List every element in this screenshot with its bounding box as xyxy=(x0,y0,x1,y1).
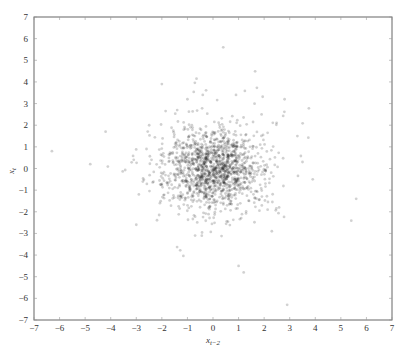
data-point xyxy=(189,187,192,190)
data-point xyxy=(187,151,190,154)
data-point xyxy=(283,110,286,113)
data-point xyxy=(177,173,180,176)
data-point xyxy=(234,130,237,133)
data-point xyxy=(253,102,256,105)
data-point xyxy=(245,123,248,126)
data-point xyxy=(228,149,231,152)
data-point xyxy=(156,219,159,222)
data-point xyxy=(220,175,223,178)
data-point xyxy=(219,184,222,187)
data-point xyxy=(253,221,256,224)
data-point xyxy=(222,154,225,157)
data-point xyxy=(228,224,231,227)
data-point xyxy=(184,197,187,200)
data-point xyxy=(205,201,208,204)
data-point xyxy=(256,131,259,134)
data-point xyxy=(266,208,269,211)
data-point xyxy=(220,140,223,143)
data-point xyxy=(197,194,200,197)
data-point xyxy=(224,192,227,195)
data-point xyxy=(222,167,225,170)
data-point xyxy=(254,155,257,158)
data-point xyxy=(206,182,209,185)
data-point xyxy=(188,169,191,172)
data-point xyxy=(195,77,198,80)
data-point xyxy=(214,176,217,179)
data-point xyxy=(301,161,304,164)
y-tick-label: 1 xyxy=(24,142,29,152)
data-point xyxy=(186,209,189,212)
data-point xyxy=(202,216,205,219)
data-point xyxy=(250,157,253,160)
data-point xyxy=(161,142,164,145)
data-point xyxy=(171,197,174,200)
data-point xyxy=(248,180,251,183)
x-tick-label: −5 xyxy=(80,323,90,333)
data-point xyxy=(178,207,181,210)
data-point xyxy=(220,129,223,132)
data-point xyxy=(240,133,243,136)
data-point xyxy=(251,167,254,170)
data-point xyxy=(237,264,240,267)
data-point xyxy=(186,128,189,131)
data-point xyxy=(181,196,184,199)
data-point xyxy=(194,234,197,237)
data-point xyxy=(186,144,189,147)
data-point xyxy=(260,156,263,159)
data-point xyxy=(220,235,223,238)
data-point xyxy=(191,144,194,147)
data-point xyxy=(195,177,198,180)
data-point xyxy=(203,167,206,170)
data-point xyxy=(228,131,231,134)
data-point xyxy=(160,175,163,178)
data-point xyxy=(276,165,279,168)
data-point xyxy=(164,110,167,113)
data-point xyxy=(199,138,202,141)
data-point xyxy=(274,209,277,212)
data-point xyxy=(208,172,211,175)
data-point xyxy=(224,208,227,211)
data-point xyxy=(301,122,304,125)
data-point xyxy=(213,211,216,214)
data-point xyxy=(220,149,223,152)
x-tick-label: −3 xyxy=(131,323,141,333)
data-point xyxy=(226,169,229,172)
data-point xyxy=(191,180,194,183)
data-point xyxy=(160,172,163,175)
data-point xyxy=(202,211,205,214)
x-tick-label: 5 xyxy=(339,323,344,333)
data-point xyxy=(231,115,234,118)
data-point xyxy=(221,178,224,181)
data-point xyxy=(296,135,299,138)
data-point xyxy=(160,83,163,86)
data-point xyxy=(222,185,225,188)
data-point xyxy=(208,186,211,189)
data-point xyxy=(201,94,204,97)
data-point xyxy=(228,193,231,196)
data-point xyxy=(224,145,227,148)
data-point xyxy=(252,134,255,137)
data-point xyxy=(355,197,358,200)
data-point xyxy=(229,120,232,123)
x-tick-label: 3 xyxy=(287,323,292,333)
data-point xyxy=(229,209,232,212)
data-point xyxy=(244,156,247,159)
data-point xyxy=(238,218,241,221)
data-point xyxy=(219,210,222,213)
data-point xyxy=(182,128,185,131)
data-point xyxy=(272,175,275,178)
data-point xyxy=(170,204,173,207)
data-point xyxy=(220,134,223,137)
data-point xyxy=(211,179,214,182)
data-point xyxy=(184,160,187,163)
data-point xyxy=(254,162,257,165)
data-point xyxy=(205,178,208,181)
data-point xyxy=(145,148,148,151)
data-point xyxy=(186,98,189,101)
data-point xyxy=(141,180,144,183)
data-point xyxy=(232,218,235,221)
data-point xyxy=(259,165,262,168)
data-point xyxy=(228,185,231,188)
data-point xyxy=(210,137,213,140)
data-point xyxy=(264,199,267,202)
